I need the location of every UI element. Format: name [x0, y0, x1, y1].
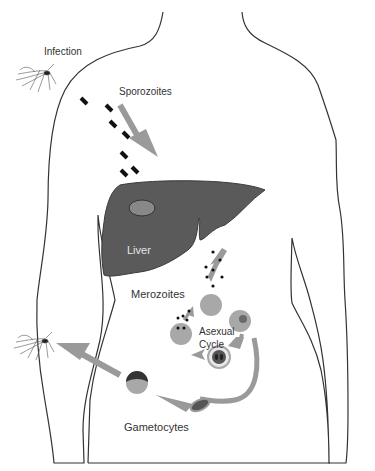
transmission-arrow: [56, 343, 120, 375]
liver-lesion: [129, 200, 155, 216]
label-liver: Liver: [127, 244, 151, 256]
liver: [102, 181, 265, 276]
label-asexual-cycle: Asexual Cycle: [199, 325, 235, 351]
label-asexual-line1: Asexual: [199, 325, 235, 338]
diagram-canvas: [0, 0, 375, 471]
gametocyte-elongated: [189, 396, 211, 414]
mosquito-icon-infection: [16, 64, 56, 92]
gametocyte-arrow: [126, 338, 257, 414]
mosquito-icon-transmission: [14, 332, 54, 360]
sporozoite-dashes: [81, 98, 138, 176]
malaria-life-cycle-diagram: Infection Sporozoites Liver Merozoites A…: [0, 0, 375, 471]
label-gametocytes: Gametocytes: [124, 421, 189, 433]
merozoite-cell: [170, 323, 192, 345]
red-blood-cell-top: [200, 294, 222, 316]
label-sporozoites: Sporozoites: [119, 86, 172, 97]
label-asexual-line2: Cycle: [199, 338, 235, 351]
label-infection: Infection: [44, 46, 82, 57]
sporozoites-arrow: [120, 105, 158, 157]
label-merozoites: Merozoites: [131, 288, 185, 300]
merozoite-release-arrow: [204, 248, 227, 288]
